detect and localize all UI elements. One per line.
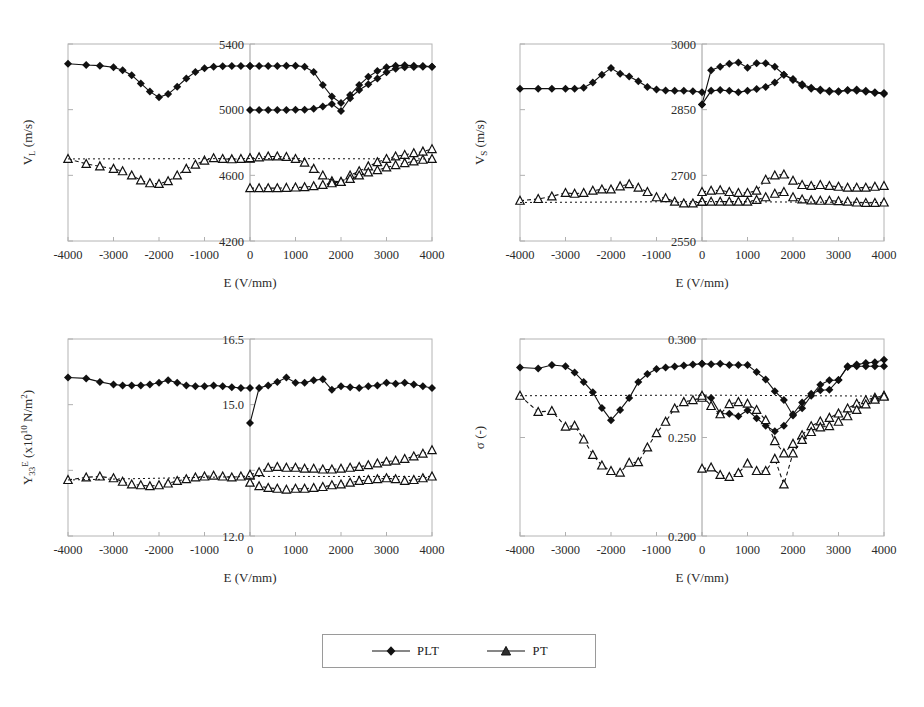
marker-open-triangle — [346, 478, 354, 486]
marker-open-triangle — [209, 154, 217, 162]
marker-filled-diamond — [707, 360, 715, 368]
marker-open-triangle — [173, 171, 181, 179]
marker-filled-diamond — [210, 381, 218, 389]
marker-filled-diamond — [853, 87, 861, 95]
marker-open-triangle — [707, 186, 715, 194]
marker-filled-diamond — [725, 60, 733, 68]
marker-filled-diamond — [835, 88, 843, 96]
marker-open-triangle — [661, 417, 669, 425]
marker-filled-diamond — [562, 362, 570, 370]
y-tick-label: 2850 — [671, 103, 696, 117]
marker-open-triangle — [743, 399, 751, 407]
marker-open-triangle — [310, 464, 318, 472]
x-tick-label: 3000 — [374, 248, 399, 262]
marker-open-triangle — [128, 480, 136, 488]
marker-open-triangle — [825, 413, 833, 421]
marker-open-triangle — [771, 189, 779, 197]
marker-open-triangle — [273, 484, 281, 492]
marker-open-triangle — [734, 188, 742, 196]
legend-entry-plt: PLT — [370, 644, 440, 659]
marker-open-triangle — [634, 458, 642, 466]
marker-open-triangle — [789, 439, 797, 447]
marker-filled-diamond — [753, 59, 761, 67]
marker-open-triangle — [780, 170, 788, 178]
marker-filled-diamond — [534, 365, 542, 373]
marker-filled-diamond — [64, 374, 72, 382]
marker-filled-diamond — [310, 68, 318, 76]
marker-open-triangle — [282, 463, 290, 471]
chart-panel-vs: 2550270028503000-4000-3000-2000-10000100… — [462, 20, 912, 320]
marker-filled-diamond — [562, 85, 570, 93]
marker-filled-diamond — [237, 384, 245, 392]
marker-filled-diamond — [419, 382, 427, 390]
marker-filled-diamond — [255, 384, 263, 392]
marker-open-triangle — [561, 188, 569, 196]
marker-filled-diamond — [110, 63, 118, 71]
marker-open-triangle — [273, 462, 281, 470]
y-tick-label: 12.0 — [222, 530, 244, 544]
marker-open-triangle — [771, 437, 779, 445]
marker-open-triangle — [128, 171, 136, 179]
marker-open-triangle — [843, 412, 851, 420]
marker-filled-diamond — [653, 86, 661, 94]
marker-open-triangle — [164, 177, 172, 185]
x-tick-label: 0 — [699, 248, 705, 262]
x-tick-label: -2000 — [596, 543, 625, 557]
marker-open-triangle — [373, 459, 381, 467]
y-tick-label: 5000 — [219, 103, 244, 117]
x-tick-label: -3000 — [99, 248, 128, 262]
marker-open-triangle — [255, 153, 263, 161]
y-tick-label: 4600 — [219, 169, 244, 183]
marker-filled-diamond — [680, 362, 688, 370]
marker-filled-diamond — [364, 382, 372, 390]
marker-open-triangle — [209, 471, 217, 479]
marker-filled-diamond — [264, 62, 272, 70]
marker-filled-diamond — [355, 384, 363, 392]
y-tick-label: 5400 — [219, 38, 244, 52]
marker-filled-diamond — [716, 360, 724, 368]
marker-open-triangle — [607, 467, 615, 475]
marker-filled-diamond — [825, 376, 833, 384]
marker-filled-diamond — [516, 364, 524, 372]
marker-filled-diamond — [282, 374, 290, 382]
marker-filled-diamond — [634, 77, 642, 85]
marker-filled-diamond — [237, 62, 245, 70]
marker-filled-diamond — [616, 70, 624, 78]
marker-filled-diamond — [346, 383, 354, 391]
marker-filled-diamond — [825, 88, 833, 96]
marker-filled-diamond — [625, 72, 633, 80]
svg-text:σ (-): σ (-) — [472, 426, 487, 449]
x-tick-label: -4000 — [53, 543, 82, 557]
marker-open-triangle — [346, 463, 354, 471]
marker-filled-diamond — [255, 106, 263, 114]
marker-open-triangle — [319, 180, 327, 188]
marker-open-triangle — [137, 176, 145, 184]
marker-filled-diamond — [191, 382, 199, 390]
y-tick-label: 15.0 — [222, 398, 244, 412]
marker-open-triangle — [743, 459, 751, 467]
marker-filled-diamond — [662, 364, 670, 372]
marker-filled-diamond — [155, 93, 163, 101]
marker-open-triangle — [771, 454, 779, 462]
y-tick-label: 16.5 — [222, 333, 244, 347]
marker-filled-diamond — [96, 62, 104, 70]
marker-filled-diamond — [191, 68, 199, 76]
marker-filled-diamond — [428, 63, 436, 71]
marker-filled-diamond — [716, 86, 724, 94]
marker-open-triangle — [789, 449, 797, 457]
marker-open-triangle — [580, 188, 588, 196]
marker-filled-diamond — [698, 100, 706, 108]
marker-open-triangle — [716, 186, 724, 194]
marker-filled-diamond — [282, 62, 290, 70]
marker-open-triangle — [734, 398, 742, 406]
marker-filled-diamond — [373, 74, 381, 82]
marker-open-triangle — [752, 467, 760, 475]
marker-filled-diamond — [744, 87, 752, 95]
marker-filled-diamond — [292, 62, 300, 70]
marker-filled-diamond — [219, 382, 227, 390]
chart-panel-y33e: 12.015.016.5-4000-3000-2000-100001000200… — [10, 315, 460, 615]
x-tick-label: 0 — [247, 248, 253, 262]
marker-open-triangle — [401, 476, 409, 484]
marker-open-triangle — [419, 449, 427, 457]
marker-filled-diamond — [110, 381, 118, 389]
